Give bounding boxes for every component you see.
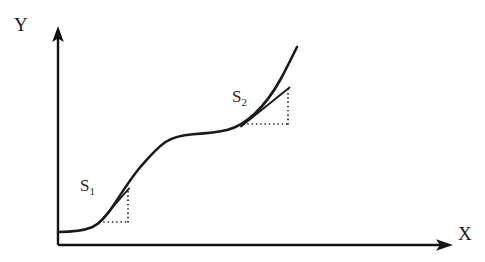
x-axis-label: X [458,223,472,244]
s2-tangent-line [241,88,290,127]
figure-container: Y X S1 S2 [0,0,485,262]
data-curve [58,47,297,232]
s2-label: S2 [232,87,247,108]
s1-label: S1 [80,176,95,197]
s1-label-subscript: 1 [89,185,95,197]
y-axis-label: Y [14,14,28,35]
s2-label-subscript: 2 [241,96,247,108]
s2-label-base: S [232,87,241,106]
s1-label-base: S [80,176,89,195]
s1-tangent-line [99,189,130,224]
curve-diagram: Y X S1 S2 [0,0,485,262]
